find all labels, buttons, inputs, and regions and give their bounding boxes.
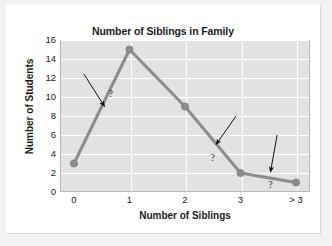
annotation-question-mark: ? <box>268 178 272 189</box>
chart-vector-layer <box>60 40 310 192</box>
x-axis-tick-label: 3 <box>238 194 243 205</box>
y-axis-tick-label: 0 <box>34 187 56 197</box>
annotation-question-mark: ? <box>108 88 112 99</box>
x-axis-tick-label: 0 <box>71 194 76 205</box>
data-point-marker <box>292 179 299 186</box>
annotation-question-mark: ? <box>211 151 215 162</box>
y-axis-title: Number of Students <box>24 37 35 177</box>
annotation-arrow <box>270 135 277 172</box>
y-axis-tick-label: 4 <box>34 149 56 159</box>
x-axis-tick-label: 2 <box>182 194 187 205</box>
annotation-arrow <box>84 74 105 106</box>
annotation-arrows <box>84 74 277 172</box>
y-axis-tick-label: 10 <box>34 92 56 102</box>
y-axis-tick-label: 16 <box>34 35 56 45</box>
chart-card: Number of Siblings in Family 02468101214… <box>6 5 320 233</box>
data-point-markers <box>70 46 299 186</box>
image-frame: Number of Siblings in Family 02468101214… <box>0 0 332 246</box>
x-axis-title: Number of Siblings <box>60 210 310 221</box>
data-point-marker <box>126 46 133 53</box>
y-axis-tick-label: 12 <box>34 73 56 83</box>
data-point-marker <box>181 103 188 110</box>
series-line <box>74 50 296 183</box>
y-axis-tick-label: 8 <box>34 111 56 121</box>
annotation-arrow <box>216 116 236 145</box>
y-axis-tick-label: 2 <box>34 168 56 178</box>
y-axis-tick-label: 14 <box>34 54 56 64</box>
x-axis-tick-label: > 3 <box>289 194 302 205</box>
data-point-marker <box>237 169 244 176</box>
y-axis-tick-label: 6 <box>34 130 56 140</box>
x-axis-tick-label: 1 <box>127 194 132 205</box>
line-series <box>74 50 296 183</box>
plot-area-wrapper: ??? <box>60 40 310 192</box>
data-point-marker <box>70 160 77 167</box>
x-axis-tick-labels: 0123> 3 <box>60 194 310 208</box>
